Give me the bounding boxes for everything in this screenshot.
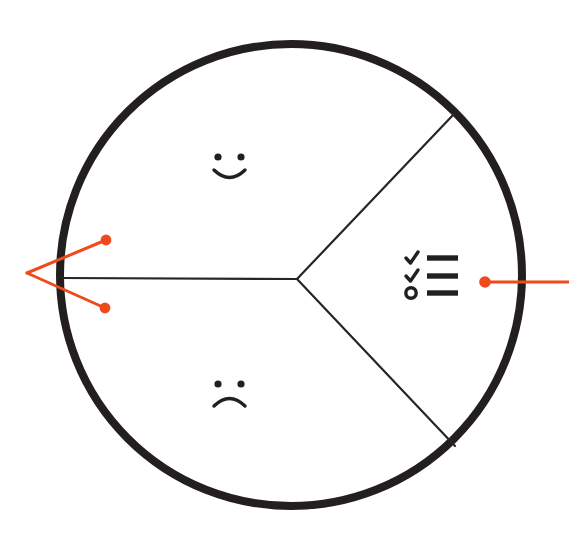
- sad-eye-right: [237, 380, 244, 387]
- sector-divider-left: [62, 278, 297, 279]
- sad-mouth: [214, 399, 245, 407]
- diagram-canvas: Sectored circle with smiley, sad face an…: [0, 0, 569, 547]
- sector-divider-upper-right: [297, 114, 454, 279]
- sad-face-icon: [214, 380, 245, 406]
- smiley-eye-right: [237, 153, 244, 160]
- checklist-check-2: [406, 270, 418, 281]
- smiley-eye-left: [214, 153, 221, 160]
- callout-left-upper-line: [27, 240, 106, 273]
- callout-left-pair[interactable]: [27, 235, 111, 314]
- callout-dot-upper-left[interactable]: [101, 235, 112, 246]
- checklist-bar-2: [427, 273, 458, 278]
- circle-sector-diagram: [0, 0, 569, 547]
- checklist-bar-1: [427, 255, 458, 260]
- sector-divider-lower-right: [297, 279, 455, 446]
- checklist-bar-3: [427, 290, 458, 295]
- smiley-mouth: [214, 170, 245, 178]
- checklist-check-1: [406, 252, 418, 263]
- smiley-face-icon: [214, 153, 245, 177]
- callout-dot-lower-left[interactable]: [100, 303, 111, 314]
- sad-eye-left: [214, 380, 221, 387]
- checklist-icon: [406, 252, 458, 298]
- checklist-bullet-circle: [406, 288, 416, 298]
- callout-dot-right[interactable]: [479, 276, 491, 288]
